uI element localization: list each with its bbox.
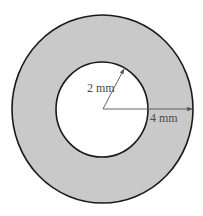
annulus-diagram: 2 mm 4 mm [0, 0, 203, 216]
inner-circle [56, 62, 148, 157]
inner-radius-label: 2 mm [87, 81, 115, 95]
outer-radius-label: 4 mm [150, 111, 178, 125]
